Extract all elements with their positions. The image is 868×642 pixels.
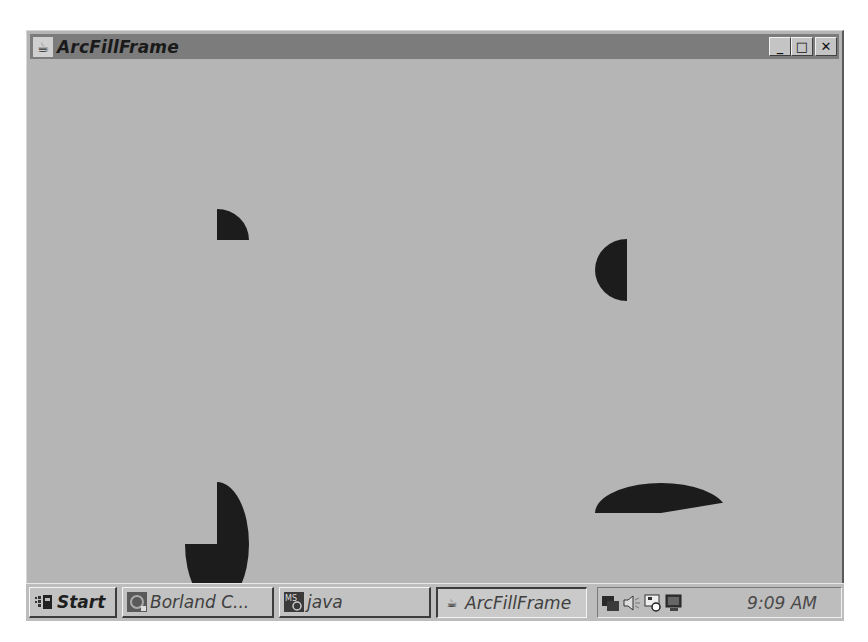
start-button[interactable]: Start [29,587,117,618]
taskbar-button-borland[interactable]: Borland C... [122,587,274,618]
system-tray: 9:09 AM [597,587,842,618]
title-bar[interactable]: ☕ ArcFillFrame _ □ ✕ [30,34,839,59]
arc-drawing-canvas [30,59,842,584]
java-coffee-cup-icon: ☕ [442,593,462,613]
window-title: ArcFillFrame [57,37,179,57]
borland-icon [127,592,147,612]
taskbar-button-java[interactable]: MS java [279,587,431,618]
arcfillframe-window: ☕ ArcFillFrame _ □ ✕ [26,30,844,584]
close-button[interactable]: ✕ [815,37,837,56]
maximize-button[interactable]: □ [791,37,813,56]
quarter-arc [217,209,249,240]
wide-arc [595,483,723,513]
clock[interactable]: 9:09 AM [747,593,817,613]
java-coffee-cup-icon[interactable]: ☕ [33,37,53,57]
window-controls: _ □ ✕ [769,37,837,56]
taskbar: Start Borland C... MS java ☕ ArcFillFram… [26,583,844,621]
taskbar-button-label: java [307,592,343,612]
start-label: Start [57,592,105,612]
canvas-area [30,59,842,584]
three-quarter-arc [185,482,249,584]
taskbar-button-label: Borland C... [150,592,249,612]
speaker-icon[interactable] [622,593,642,613]
network-icon[interactable] [601,593,621,613]
minimize-button[interactable]: _ [769,37,791,56]
scheduler-icon[interactable] [643,593,663,613]
taskbar-button-arcfillframe[interactable]: ☕ ArcFillFrame [436,587,587,618]
msdos-icon: MS [284,592,304,612]
display-icon[interactable] [664,593,684,613]
windows-logo-icon [34,592,54,612]
taskbar-button-label: ArcFillFrame [465,593,571,613]
half-arc [595,239,627,301]
